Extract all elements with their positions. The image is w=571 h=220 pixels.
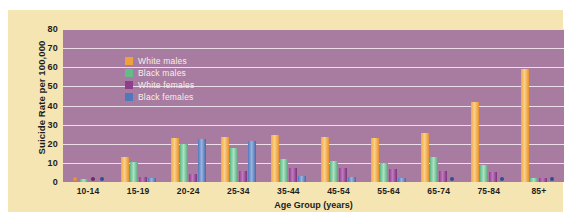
x-axis-tick-label: 65-74 [414,186,464,200]
legend-label: Black males [138,68,186,78]
y-axis-tick-label: 60 [16,62,58,72]
y-axis-tick-label: 70 [16,43,58,53]
y-axis-tick-label: 50 [16,81,58,91]
bar [321,137,329,182]
bar-marker-slot [498,177,506,182]
legend-swatch [125,93,133,101]
bar [121,157,129,182]
bar-group [213,29,263,182]
bar [148,178,156,182]
bar [380,163,388,182]
y-axis-tick-label: 80 [16,24,58,34]
bar [371,138,379,182]
bar-group [414,29,464,182]
legend-swatch [125,81,133,89]
bar [280,159,288,182]
bar-group [63,29,113,182]
bar-group [263,29,313,182]
x-axis-tick-label: 10-14 [63,186,113,200]
y-axis-tick-label: 20 [16,139,58,149]
x-axis-tick-label: 75-84 [464,186,514,200]
bar [80,179,88,182]
near-zero-dot-marker [550,177,554,181]
bar [248,141,256,182]
x-axis-tick-label: 35-44 [263,186,313,200]
bar-group [113,29,163,182]
bar [471,102,479,182]
legend-item: Black males [125,67,194,78]
legend-item: White females [125,79,194,90]
bar [439,171,447,182]
near-zero-dot-marker [450,177,454,181]
legend-item: Black females [125,91,194,102]
bar [230,148,238,182]
legend-label: White males [138,56,187,66]
bar-group [163,29,213,182]
bar [539,178,547,182]
bar-marker-slot [448,177,456,182]
bar [348,177,356,182]
bar [139,177,147,182]
bar-marker-slot [89,177,97,182]
bar [271,135,279,182]
bar [480,165,488,182]
bar [171,138,179,182]
bar [330,161,338,182]
x-axis-tick-label: 45-54 [313,186,363,200]
bar-group [364,29,414,182]
bar-group [313,29,363,182]
near-zero-dot-marker [500,177,504,181]
bar-marker-slot [71,177,79,182]
x-axis-tick-labels: 10-1415-1920-2425-3435-4445-5455-6465-74… [63,186,564,200]
chart-panel: Suicide Rate per 100,000 010203040506070… [8,10,563,212]
bar [198,139,206,182]
bar [521,69,529,182]
y-axis-tick-label: 0 [16,177,58,187]
plot-area: White malesBlack malesWhite femalesBlack… [63,29,564,182]
legend-label: Black females [138,92,194,102]
near-zero-dot-marker [73,177,77,181]
y-axis-tick-labels: 01020304050607080 [16,29,58,182]
x-axis-tick-label: 15-19 [113,186,163,200]
bar [421,133,429,182]
chart-screenshot: Suicide Rate per 100,000 010203040506070… [0,0,571,220]
bar-groups [63,29,564,182]
legend-label: White females [138,80,194,90]
bar [298,176,306,182]
x-axis-tick-label: 20-24 [163,186,213,200]
legend-item: White males [125,55,194,66]
x-axis-tick-label: 25-34 [213,186,263,200]
bar [430,157,438,182]
chart-legend: White malesBlack malesWhite femalesBlack… [125,55,194,103]
bar [289,168,297,182]
bar [389,169,397,182]
bar-group [464,29,514,182]
bar-marker-slot [98,177,106,182]
bar [398,178,406,182]
x-axis-title: Age Group (years) [63,200,564,210]
bar [489,172,497,182]
bar [221,137,229,182]
legend-swatch [125,57,133,65]
bar [239,171,247,182]
near-zero-dot-marker [91,177,95,181]
bar [130,162,138,182]
near-zero-dot-marker [100,177,104,181]
legend-swatch [125,69,133,77]
bar [180,144,188,182]
bar [530,178,538,182]
bar-marker-slot [548,177,556,182]
x-axis-tick-label: 55-64 [364,186,414,200]
bar [339,168,347,182]
y-axis-tick-label: 40 [16,101,58,111]
x-axis-tick-label: 85+ [514,186,564,200]
bar-group [514,29,564,182]
y-axis-tick-label: 30 [16,120,58,130]
y-axis-tick-label: 10 [16,158,58,168]
bar [189,174,197,182]
